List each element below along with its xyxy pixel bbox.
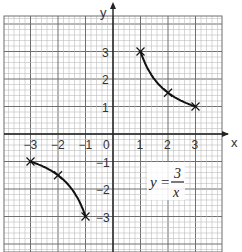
y-tick-label: 3 — [102, 46, 109, 60]
x-tick-label: 0 — [103, 138, 110, 152]
x-tick-label: 3 — [192, 138, 199, 152]
equation-denominator: x — [172, 185, 180, 200]
x-tick-label: −2 — [51, 138, 65, 152]
x-tick-label: −3 — [24, 138, 38, 152]
x-tick-label: 2 — [164, 138, 171, 152]
equation-lhs: y — [148, 174, 157, 190]
y-axis-arrow-icon — [110, 2, 116, 9]
x-axis-label: x — [231, 135, 238, 150]
equation-equals: = — [160, 174, 170, 190]
y-tick-label: −2 — [96, 183, 110, 197]
x-tick-label: −1 — [79, 138, 93, 152]
x-axis-arrow-icon — [222, 131, 229, 137]
y-axis-label: y — [100, 5, 107, 20]
equation-label: y = 3 x — [147, 162, 185, 200]
equation-numerator: 3 — [173, 166, 181, 181]
y-tick-label: 2 — [102, 73, 109, 87]
y-tick-label: −1 — [96, 156, 110, 170]
graph-figure: −3−2−10123321−1−2−3 x y y = 3 x — [0, 0, 242, 252]
y-tick-label: −3 — [96, 211, 110, 225]
x-tick-label: 1 — [137, 138, 144, 152]
y-tick-label: 1 — [102, 101, 109, 115]
